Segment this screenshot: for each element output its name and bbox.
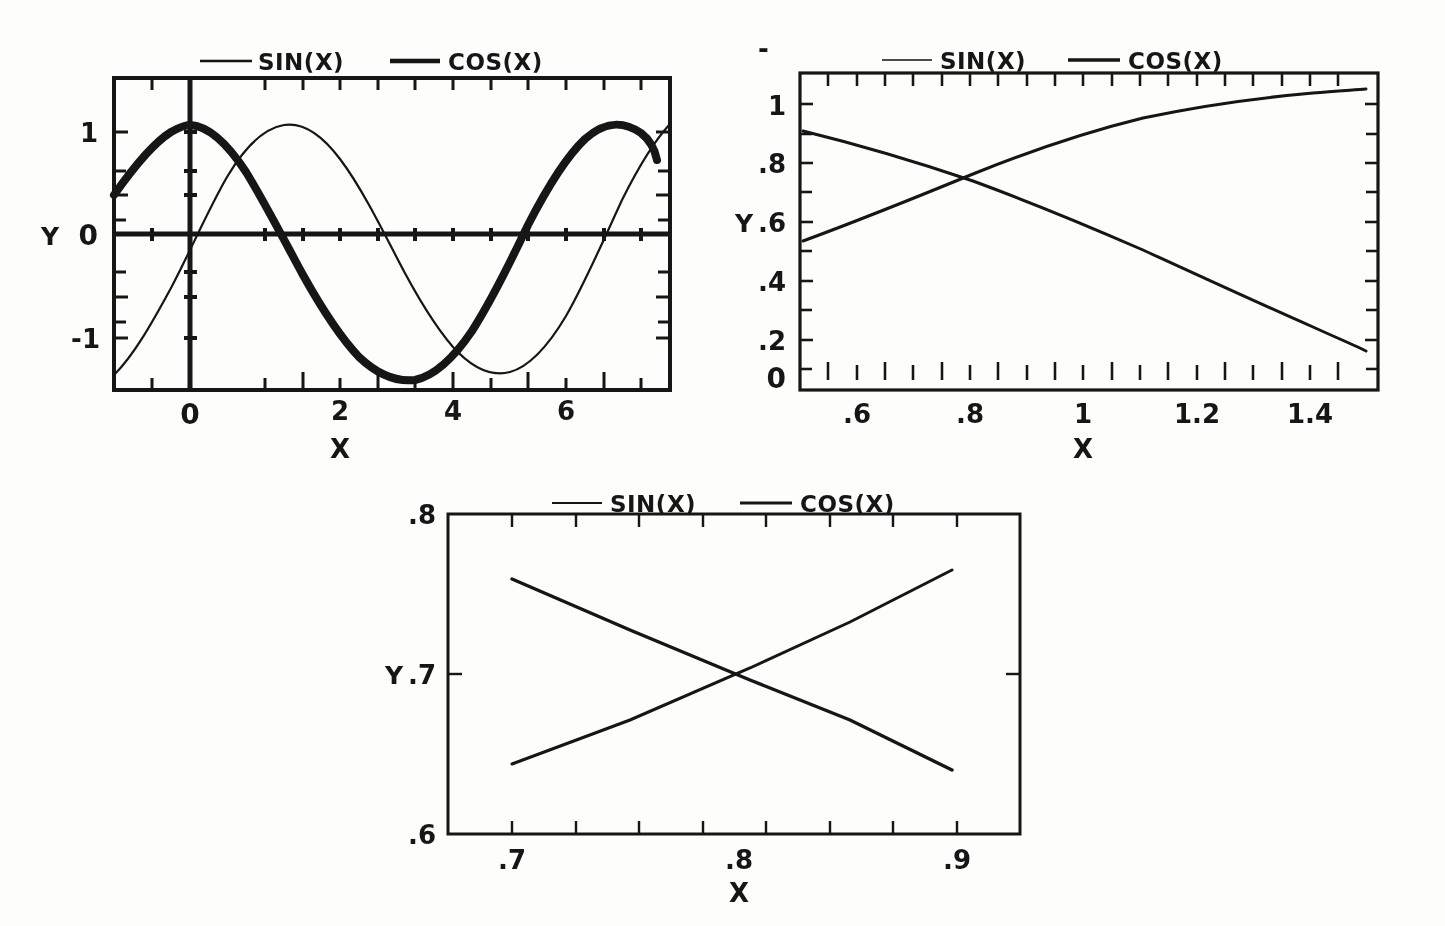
xtick-label-0: 0 [180, 398, 199, 431]
xtick-label-06: .6 [843, 399, 871, 429]
xtick-label-3: 6 [557, 396, 575, 426]
series-line-cos [114, 125, 657, 381]
legend-label-cos: COS(X) [448, 49, 543, 75]
xtick-label-1: 1 [1074, 399, 1092, 429]
ytick-label-0: 0 [767, 362, 786, 395]
xaxis-title: X [729, 878, 749, 908]
ytick-label-1: 1 [768, 91, 786, 121]
legend: SIN(X) COS(X) [200, 49, 543, 75]
corner-mark: - [758, 34, 769, 64]
xtick-label-14: 1.4 [1287, 399, 1333, 429]
ytick-label-02: .2 [758, 326, 786, 356]
series-line-sin [803, 89, 1366, 241]
xtick-label-2: 4 [444, 396, 462, 426]
xaxis-title: X [330, 434, 350, 464]
chart-full-range: SIN(X) COS(X) [0, 20, 760, 480]
plot-frame [800, 73, 1378, 390]
xtick-label-08: .8 [956, 399, 984, 429]
chart-zoom-close: SIN(X) COS(X) [330, 470, 1120, 910]
xtick-label-1: 2 [331, 396, 349, 426]
xtick-label-08: .8 [725, 845, 753, 875]
ytick-label-08: .8 [408, 500, 436, 530]
xtick-label-09: .9 [943, 845, 971, 875]
legend-label-sin: SIN(X) [258, 49, 344, 75]
scanned-page: SIN(X) COS(X) [0, 0, 1445, 926]
ytick-label-06: .6 [408, 820, 436, 850]
chart-zoom-medium: - SIN(X) COS(X) [700, 20, 1445, 480]
chart-zoom-medium-svg: - SIN(X) COS(X) [700, 20, 1445, 480]
ytick-label-06: .6 [758, 208, 786, 238]
series-line-sin [512, 570, 952, 764]
chart-zoom-close-svg: SIN(X) COS(X) [330, 470, 1120, 910]
ytick-label-1: 0 [79, 219, 98, 252]
xaxis-title: X [1073, 434, 1093, 464]
ytick-label-04: .4 [758, 267, 786, 297]
ytick-label-0: 1 [80, 118, 98, 148]
legend: SIN(X) COS(X) [882, 48, 1223, 74]
xtick-label-07: .7 [498, 845, 526, 875]
ytick-label-07: .7 [408, 660, 436, 690]
series-line-cos [803, 131, 1366, 351]
yaxis-title: Y [40, 222, 60, 251]
frame-ticks [800, 73, 1378, 369]
ytick-label-08: .8 [758, 149, 786, 179]
yaxis-title: Y [734, 209, 754, 238]
chart-full-range-svg: SIN(X) COS(X) [0, 20, 760, 480]
legend-label-sin: SIN(X) [940, 48, 1026, 74]
ytick-label-2: -1 [71, 324, 100, 354]
yaxis-title: Y [384, 661, 404, 690]
series-line-sin [114, 124, 670, 375]
legend-label-cos: COS(X) [1128, 48, 1223, 74]
xtick-label-12: 1.2 [1174, 399, 1220, 429]
